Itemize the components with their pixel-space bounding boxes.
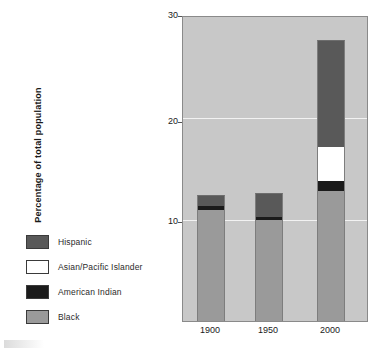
legend-item-american-indian: American Indian (26, 281, 166, 303)
legend-label-american-indian: American Indian (58, 287, 122, 297)
x-tick-label-1900: 1900 (180, 325, 240, 335)
legend-item-asian-pacific-islander: Asian/Pacific Islander (26, 256, 166, 278)
legend-label-black: Black (58, 312, 80, 322)
x-tick-label-1950: 1950 (238, 325, 298, 335)
legend-item-black: Black (26, 306, 166, 328)
scan-artifact (4, 340, 44, 348)
legend-swatch-asian-pacific-islander (26, 260, 49, 274)
y-axis-ticks: 30 20 10 (150, 0, 178, 352)
legend-swatch-black (26, 310, 49, 324)
bar-segment-2000-hispanic (317, 40, 345, 147)
legend-label-asian-pacific-islander: Asian/Pacific Islander (58, 262, 143, 272)
bar-segment-1900-hispanic (197, 195, 225, 206)
y-axis-title: Percentage of total population (33, 60, 43, 250)
bar-segment-2000-american-indian (317, 181, 345, 191)
y-tick-label-20: 20 (150, 116, 178, 126)
bar-segment-2000-black (317, 191, 345, 321)
legend-label-hispanic: Hispanic (58, 237, 92, 247)
chart-figure: Hispanic Asian/Pacific Islander American… (0, 0, 385, 352)
bar-segment-1950-hispanic (255, 193, 283, 217)
bar-2000[interactable] (317, 40, 345, 321)
bar-segment-1900-black (197, 210, 225, 321)
x-tick-label-2000: 2000 (300, 325, 360, 335)
legend-swatch-american-indian (26, 285, 49, 299)
bar-segment-2000-asian-pacific-islander (317, 147, 345, 181)
chart-legend: Hispanic Asian/Pacific Islander American… (26, 231, 166, 331)
y-tick-label-10: 10 (150, 216, 178, 226)
y-tick-label-30: 30 (150, 10, 178, 20)
bar-1900[interactable] (197, 195, 225, 321)
bar-1950[interactable] (255, 193, 283, 321)
plot-area (182, 16, 368, 322)
bar-segment-1950-black (255, 220, 283, 321)
legend-item-hispanic: Hispanic (26, 231, 166, 253)
